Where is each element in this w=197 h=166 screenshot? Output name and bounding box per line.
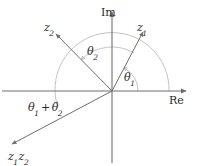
angle-label-theta2: θ2 <box>87 46 98 60</box>
angle-label-theta2-subscript: 2 <box>93 53 98 62</box>
argand-diagram-canvas <box>0 0 197 166</box>
angle-label-theta1-plus-theta2: θ1+θ2 <box>28 102 63 116</box>
real-axis-label: Re <box>169 95 184 106</box>
vector-label-z2-subscript: 2 <box>49 29 54 38</box>
argand-diagram-figure: Im Re z1 z2 z1z2 θ1 θ2 θ1+θ2 <box>0 0 197 166</box>
imaginary-axis-label: Im <box>101 7 116 18</box>
angle-sum-operator: + <box>39 101 51 114</box>
angle-label-theta1-subscript: 1 <box>130 79 135 88</box>
vector-label-z1-subscript: 1 <box>142 29 147 38</box>
vector-label-z1: z1 <box>137 22 148 36</box>
vector-label-z2: z2 <box>44 22 55 36</box>
vector-label-z1z2: z1z2 <box>8 151 29 165</box>
vector-z2 <box>56 34 112 91</box>
angle-sum-subscript-1: 1 <box>34 109 39 118</box>
angle-label-theta1: θ1 <box>124 72 135 86</box>
vector-label-z1z2-subscript1: 1 <box>13 158 18 166</box>
angle-sum-subscript-2: 2 <box>58 109 63 118</box>
vector-label-z1z2-subscript2: 2 <box>24 158 29 166</box>
